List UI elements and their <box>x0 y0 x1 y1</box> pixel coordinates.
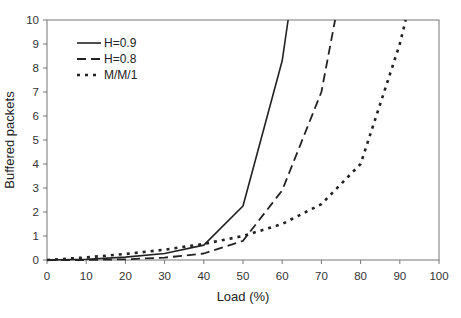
x-axis: 0102030405060708090100 <box>44 260 449 282</box>
y-tick-label: 3 <box>33 182 39 194</box>
x-tick-label: 20 <box>119 270 132 282</box>
y-tick-label: 10 <box>26 14 39 26</box>
y-tick-label: 7 <box>33 86 39 98</box>
y-tick-label: 1 <box>33 230 39 242</box>
legend-label: M/M/1 <box>104 68 138 82</box>
series-line-1 <box>47 20 288 260</box>
x-tick-label: 40 <box>197 270 210 282</box>
legend-label: H=0.9 <box>104 36 137 50</box>
x-tick-label: 60 <box>276 270 289 282</box>
x-tick-label: 50 <box>237 270 250 282</box>
y-tick-label: 5 <box>33 134 39 146</box>
x-tick-label: 90 <box>393 270 406 282</box>
series-line-2 <box>47 20 335 260</box>
y-tick-label: 8 <box>33 62 39 74</box>
legend: H=0.9H=0.8M/M/1 <box>77 36 138 82</box>
y-tick-label: 9 <box>33 38 39 50</box>
series-lines <box>47 20 406 260</box>
y-axis-title: Buffered packets <box>2 91 17 189</box>
x-tick-label: 70 <box>315 270 328 282</box>
y-tick-label: 4 <box>33 158 40 170</box>
x-tick-label: 80 <box>354 270 367 282</box>
series-line-3 <box>47 20 406 260</box>
x-axis-title: Load (%) <box>217 289 270 304</box>
y-axis: 012345678910 <box>26 14 47 266</box>
x-tick-label: 100 <box>429 270 448 282</box>
y-tick-label: 2 <box>33 206 39 218</box>
legend-label: H=0.8 <box>104 52 137 66</box>
x-tick-label: 10 <box>80 270 93 282</box>
y-tick-label: 0 <box>33 254 39 266</box>
line-chart: 012345678910 0102030405060708090100 Buff… <box>0 0 461 318</box>
y-tick-label: 6 <box>33 110 39 122</box>
plot-area: 012345678910 0102030405060708090100 <box>26 14 448 282</box>
x-tick-label: 0 <box>44 270 50 282</box>
x-tick-label: 30 <box>158 270 171 282</box>
